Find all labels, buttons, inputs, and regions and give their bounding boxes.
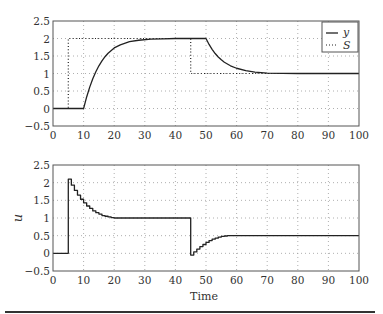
legend-label-s: S: [343, 39, 351, 52]
x-axis-label: Time: [190, 290, 218, 303]
y-tick-label: 1: [43, 68, 50, 80]
x-tick-label: 20: [108, 274, 121, 286]
y-tick-label: 0: [43, 247, 50, 259]
figure: 0102030405060708090100−0.500.511.522.5 0…: [0, 0, 383, 314]
x-tick-label: 0: [50, 129, 57, 141]
y-tick-label: 1.5: [33, 194, 50, 206]
y-tick-label: 2: [43, 33, 50, 45]
x-tick-label: 70: [261, 274, 274, 286]
x-tick-label: 50: [199, 129, 212, 141]
y-tick-label: −0.5: [25, 120, 51, 132]
y-tick-label: 2: [43, 177, 50, 189]
x-tick-label: 50: [199, 274, 212, 286]
x-tick-label: 40: [169, 274, 182, 286]
bottom-plot-control-u: 0102030405060708090100−0.500.511.522.5: [25, 159, 370, 286]
x-tick-label: 40: [169, 129, 182, 141]
legend-label-y: y: [342, 26, 350, 39]
x-tick-label: 0: [50, 274, 57, 286]
x-tick-label: 60: [230, 129, 243, 141]
y-tick-label: 1.5: [33, 50, 50, 62]
x-tick-label: 70: [261, 129, 274, 141]
x-tick-label: 10: [77, 129, 90, 141]
x-tick-label: 30: [138, 274, 151, 286]
y-tick-label: 2.5: [33, 159, 50, 171]
x-tick-label: 20: [108, 129, 121, 141]
y-tick-label: −0.5: [25, 265, 51, 277]
horizontal-rule: [5, 311, 375, 313]
y-tick-label: 0.5: [33, 230, 50, 242]
x-tick-label: 80: [291, 274, 304, 286]
x-tick-label: 10: [77, 274, 90, 286]
x-tick-label: 100: [349, 274, 369, 286]
x-tick-label: 90: [322, 274, 335, 286]
y-tick-label: 1: [43, 212, 50, 224]
top-plot-output-y: 0102030405060708090100−0.500.511.522.5: [25, 15, 370, 141]
y-axis-label: u: [10, 214, 25, 222]
y-tick-label: 2.5: [33, 15, 50, 27]
x-tick-label: 60: [230, 274, 243, 286]
legend: y S: [322, 22, 358, 52]
x-tick-label: 90: [322, 129, 335, 141]
y-tick-label: 0.5: [33, 85, 50, 97]
x-tick-label: 80: [291, 129, 304, 141]
x-tick-label: 100: [349, 129, 369, 141]
x-tick-label: 30: [138, 129, 151, 141]
legend-box: [322, 22, 358, 52]
y-tick-label: 0: [43, 103, 50, 115]
